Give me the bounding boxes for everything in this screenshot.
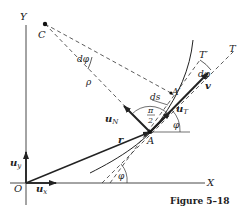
y-axis-label: Y xyxy=(20,11,28,22)
unit-x-label: ux xyxy=(36,183,47,196)
tangent-t-label: T xyxy=(229,43,237,54)
center-label: C xyxy=(38,29,46,40)
point-a-label: A xyxy=(146,135,154,146)
x-axis-label: X xyxy=(206,177,215,188)
phi-axis-label: φ xyxy=(118,171,125,181)
unit-normal-label: uN xyxy=(105,113,119,126)
velocity-label: v xyxy=(205,80,211,91)
phi-a-label: φ xyxy=(173,120,180,130)
kinematics-diagram: Y X O C A A′ T T′ ux uy r v uT uN ρ dφ d… xyxy=(0,0,247,211)
dphi-tangent-label: dφ xyxy=(198,69,211,79)
origin-label: O xyxy=(14,183,22,194)
point-a-prime-label: A′ xyxy=(171,87,181,97)
position-vector-label: r xyxy=(118,134,124,145)
right-angle-den: 2 xyxy=(147,116,153,125)
unit-y-label: uy xyxy=(10,157,22,170)
tangent-line xyxy=(102,50,235,183)
figure-caption: Figure 5–18 xyxy=(170,196,230,206)
position-vector xyxy=(26,132,150,183)
right-angle-num: π xyxy=(147,106,154,115)
point-a xyxy=(148,130,152,134)
radius-label: ρ xyxy=(85,77,92,87)
radius-line-a-prime xyxy=(45,24,171,93)
center-point xyxy=(43,22,47,26)
unit-tangent-label: uT xyxy=(176,103,189,116)
tangent-line-prime xyxy=(110,60,200,183)
ds-label: ds xyxy=(150,92,161,102)
dphi-center-label: dφ xyxy=(77,54,90,64)
tangent-t-prime-label: T′ xyxy=(199,49,209,60)
